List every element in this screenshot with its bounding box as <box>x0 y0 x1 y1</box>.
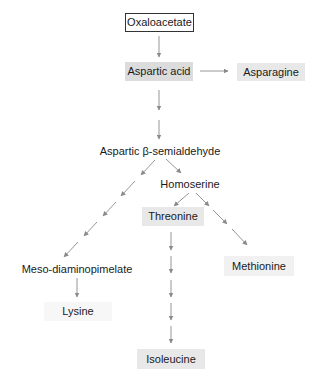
arrow-homoserine-threonine <box>174 193 189 206</box>
node-aspartic-acid: Aspartic acid <box>125 62 193 81</box>
node-oxaloacetate: Oxaloacetate <box>125 13 194 32</box>
node-meso-diaminopimelate: Meso-diaminopimelate <box>18 261 136 277</box>
node-threonine: Threonine <box>142 207 204 226</box>
node-methionine: Methionine <box>224 256 294 276</box>
node-lysine: Lysine <box>44 302 112 321</box>
node-asparagine: Asparagine <box>237 63 305 81</box>
node-isoleucine: Isoleucine <box>137 349 205 369</box>
node-homoserine: Homoserine <box>158 176 222 192</box>
arrow-semialdehyde-homoserine <box>166 159 181 173</box>
node-aspartic-semialdehyde: Aspartic β-semialdehyde <box>96 143 224 159</box>
